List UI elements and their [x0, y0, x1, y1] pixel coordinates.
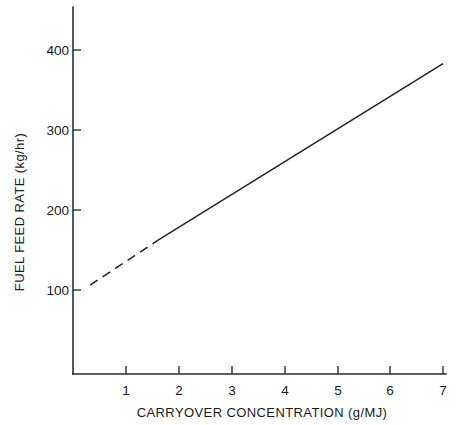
x-tick-label-3: 3: [228, 383, 236, 398]
y-tick-label-200: 200: [46, 203, 69, 218]
y-tick-label-400: 400: [46, 43, 69, 58]
x-tick-label-4: 4: [281, 383, 289, 398]
y-tick-label-300: 300: [46, 123, 69, 138]
x-axis-title: CARRYOVER CONCENTRATION (g/MJ): [137, 405, 388, 420]
x-tick-label-2: 2: [175, 383, 183, 398]
x-tick-label-6: 6: [386, 383, 394, 398]
x-tick-label-1: 1: [122, 383, 130, 398]
y-axis-title: FUEL FEED RATE (kg/hr): [12, 133, 27, 291]
x-tick-label-7: 7: [439, 383, 447, 398]
chart-figure: 100 200 300 400 1 2 3 4 5 6 7 CARRYOVER …: [0, 0, 461, 425]
y-tick-label-100: 100: [46, 283, 69, 298]
series-line-extrapolated: [90, 240, 158, 285]
x-tick-label-5: 5: [334, 383, 342, 398]
line-chart-plot: 100 200 300 400 1 2 3 4 5 6 7 CARRYOVER …: [0, 0, 461, 425]
series-line-measured: [158, 64, 443, 241]
